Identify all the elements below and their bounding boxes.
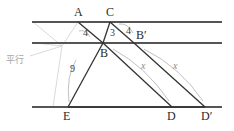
segment-B-E [68, 43, 103, 107]
point-label-Dp: D′ [201, 110, 212, 122]
measure-AB: 4 [83, 28, 88, 38]
point-label-A: A [74, 6, 83, 18]
arc-BpDp [144, 49, 203, 101]
measure-BD: x [141, 61, 145, 71]
segment-A-B [78, 22, 103, 43]
point-label-Bp: B′ [136, 29, 147, 41]
parallel-note: 平行 [6, 56, 24, 65]
arc-BD [113, 49, 169, 101]
figure-canvas [0, 0, 234, 131]
point-label-D: D [167, 110, 176, 122]
measure-CB: 3 [110, 28, 115, 38]
segment-Bp-Dp [134, 43, 205, 107]
point-label-C: C [106, 6, 114, 18]
measure-BpDp: x [173, 61, 177, 71]
point-label-B: B [100, 47, 108, 59]
segment-B-D [103, 43, 172, 107]
helper-bracket-stem [30, 46, 62, 56]
measure-CBp: 4 [126, 26, 131, 36]
helper-bracket-bottom [53, 46, 62, 107]
segment-C-B [103, 22, 110, 43]
geometry-figure: ACBB′EDD′ 4349xx 平行 [0, 0, 234, 131]
point-label-E: E [63, 110, 70, 122]
measure-BE: 9 [70, 64, 75, 74]
